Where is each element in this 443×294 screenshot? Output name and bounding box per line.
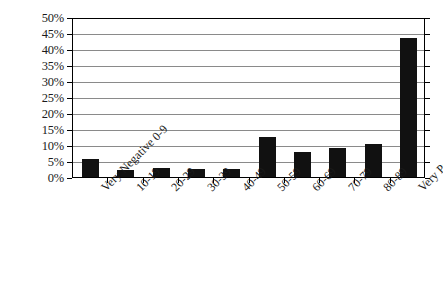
x-tick-label: 80-89 xyxy=(381,185,389,193)
x-tick-mark xyxy=(390,178,391,183)
y-tick-mark xyxy=(67,146,72,147)
y-tick-mark xyxy=(425,114,430,115)
x-tick-mark xyxy=(354,178,355,183)
x-tick-mark xyxy=(178,178,179,183)
x-tick-label: 20-29 xyxy=(169,185,177,193)
y-tick-mark xyxy=(67,130,72,131)
y-tick-mark xyxy=(67,114,72,115)
x-tick-label: 10-19 xyxy=(134,185,142,193)
y-tick-mark xyxy=(67,50,72,51)
y-tick-mark xyxy=(425,98,430,99)
y-tick-mark xyxy=(67,18,72,19)
y-tick-mark xyxy=(425,130,430,131)
x-tick-mark xyxy=(143,178,144,183)
x-tick-label: Very Negative 0-9 xyxy=(99,185,107,193)
y-tick-mark xyxy=(67,98,72,99)
x-tick-mark xyxy=(107,178,108,183)
y-tick-mark xyxy=(425,82,430,83)
y-tick-mark xyxy=(425,66,430,67)
y-tick-mark xyxy=(425,18,430,19)
x-tick-mark xyxy=(213,178,214,183)
x-tick-label: 50-59 xyxy=(275,185,283,193)
y-tick-mark xyxy=(67,82,72,83)
y-tick-mark xyxy=(67,178,72,179)
x-tick-mark xyxy=(249,178,250,183)
y-tick-mark xyxy=(425,178,430,179)
x-tick-label: 40-49 xyxy=(240,185,248,193)
x-tick-mark xyxy=(284,178,285,183)
x-axis: Very Negative 0-910-1920-2930-3940-4950-… xyxy=(0,0,443,294)
y-tick-mark xyxy=(425,146,430,147)
y-tick-mark xyxy=(425,50,430,51)
y-tick-mark xyxy=(425,34,430,35)
x-tick-label: 30-39 xyxy=(205,185,213,193)
x-tick-label: 70-79 xyxy=(346,185,354,193)
y-tick-mark xyxy=(67,66,72,67)
x-tick-mark xyxy=(319,178,320,183)
y-tick-mark xyxy=(425,162,430,163)
x-tick-label: 60-69 xyxy=(310,185,318,193)
bar-chart: 0%5%10%15%20%25%30%35%40%45%50% Very Neg… xyxy=(0,0,443,294)
y-tick-mark xyxy=(67,162,72,163)
y-tick-mark xyxy=(67,34,72,35)
x-tick-label: Very Positive 90-100 xyxy=(416,185,424,193)
